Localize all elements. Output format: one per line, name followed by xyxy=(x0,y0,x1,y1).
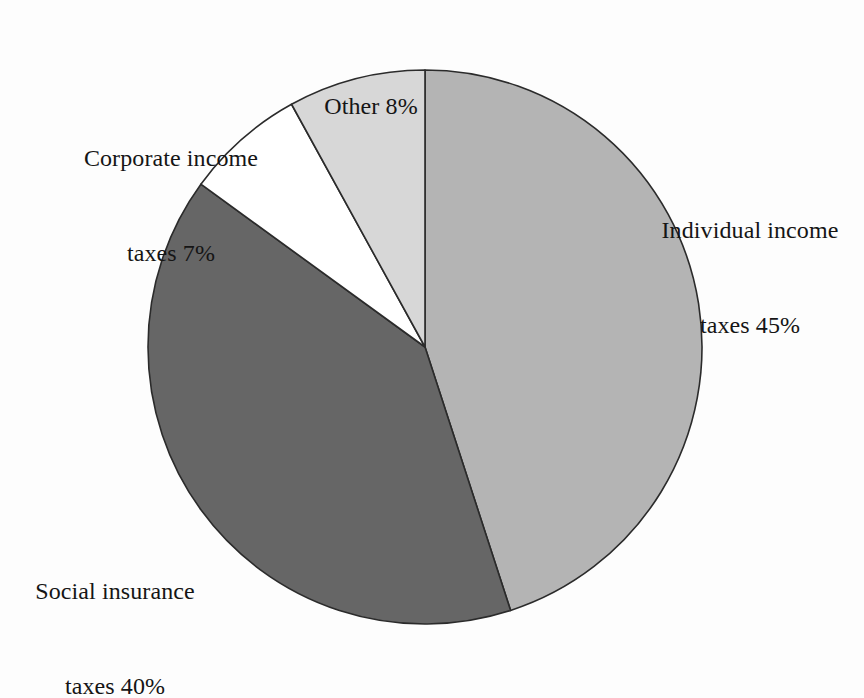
slice-label-corporate-income-taxes: Corporate income taxes 7% xyxy=(62,80,280,333)
slice-label-corporate-line2: taxes 7% xyxy=(62,238,280,270)
slice-label-social-line1: Social insurance xyxy=(6,576,224,608)
slice-label-other: Other 8% xyxy=(291,28,451,186)
slice-label-social-line2: taxes 40% xyxy=(6,671,224,698)
slice-label-social-insurance-taxes: Social insurance taxes 40% xyxy=(6,513,224,698)
slice-label-other-line1: Other 8% xyxy=(291,91,451,123)
slice-label-individual-line2: taxes 45% xyxy=(641,310,859,342)
slice-label-corporate-line1: Corporate income xyxy=(62,143,280,175)
slice-label-individual-income-taxes: Individual income taxes 45% xyxy=(641,152,859,405)
slice-label-individual-line1: Individual income xyxy=(641,215,859,247)
